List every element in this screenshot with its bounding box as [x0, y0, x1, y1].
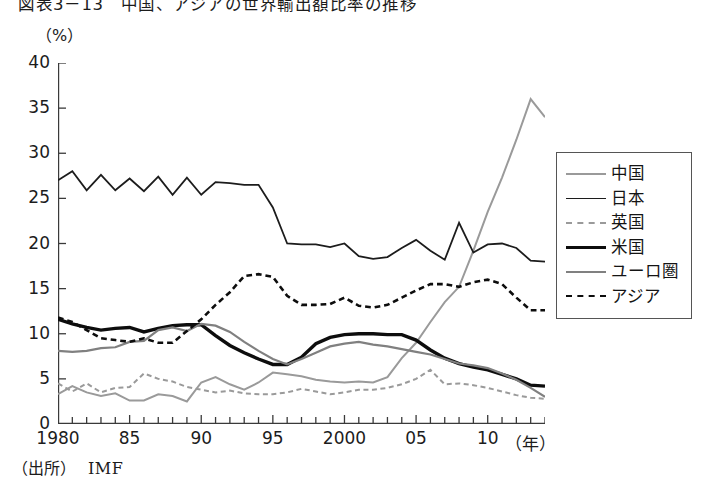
y-axis-unit-label: （%）: [36, 22, 83, 46]
legend-item-uk[interactable]: 英国: [557, 211, 691, 236]
legend-swatch-china-icon: [566, 168, 606, 180]
legend-label-usa: 米国: [611, 240, 645, 257]
legend-label-asia: アジア: [611, 289, 661, 306]
y-axis-tick-label: 15: [4, 280, 50, 297]
series-line-uk: [58, 370, 545, 399]
x-axis-tick-label: 95: [262, 430, 284, 447]
y-axis-tick-label: 30: [4, 144, 50, 161]
legend-label-china: 中国: [611, 166, 645, 183]
legend-swatch-usa-icon: [566, 242, 606, 254]
source-label: （出所）: [12, 459, 76, 478]
x-axis-unit-label: （年）: [505, 430, 556, 455]
x-axis-tick-label: 05: [405, 430, 427, 447]
figure-root: 図表3－13 中国、アジアの世界輸出額比率の推移 （%） 05101520253…: [0, 0, 722, 494]
chart-title: 図表3－13 中国、アジアの世界輸出額比率の推移: [18, 0, 418, 15]
legend-label-japan: 日本: [611, 191, 645, 208]
y-axis-tick-label: 5: [4, 370, 50, 387]
legend-item-japan[interactable]: 日本: [557, 187, 691, 212]
legend-item-asia[interactable]: アジア: [557, 285, 691, 310]
legend-label-uk: 英国: [611, 215, 645, 232]
x-axis-tick-label: 90: [190, 430, 212, 447]
x-axis-tick-label: 85: [119, 430, 141, 447]
x-axis-tick-label: 10: [477, 430, 499, 447]
legend: 中国日本英国米国ユーロ圏アジア: [556, 152, 692, 319]
legend-swatch-eurozone-icon: [566, 266, 606, 278]
legend-item-eurozone[interactable]: ユーロ圏: [557, 260, 691, 285]
legend-swatch-japan-icon: [566, 193, 606, 205]
series-line-japan: [58, 171, 545, 261]
chart-lines-svg: [58, 63, 545, 424]
y-axis-tick-label: 40: [4, 54, 50, 71]
y-axis-tick-label: 35: [4, 99, 50, 116]
series-line-asia: [58, 274, 545, 343]
legend-item-usa[interactable]: 米国: [557, 236, 691, 261]
legend-item-china[interactable]: 中国: [557, 162, 691, 187]
plot-area: [58, 63, 545, 424]
x-axis-tick-label: 2000: [323, 430, 366, 447]
legend-swatch-asia-icon: [566, 291, 606, 303]
source-value: IMF: [88, 459, 123, 478]
legend-label-eurozone: ユーロ圏: [611, 264, 679, 281]
y-axis-tick-label: 10: [4, 325, 50, 342]
source-note: （出所）IMF: [12, 455, 123, 479]
y-axis-tick-label: 25: [4, 189, 50, 206]
y-axis-tick-label: 20: [4, 235, 50, 252]
legend-swatch-uk-icon: [566, 217, 606, 229]
x-axis-tick-label: 1980: [36, 430, 79, 447]
